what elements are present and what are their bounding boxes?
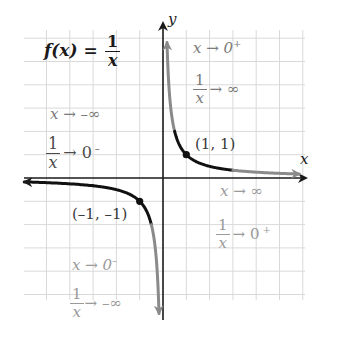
y-axis-label: y — [168, 12, 176, 27]
annotation-recip-to-inf: 1x→ ∞ — [193, 73, 242, 106]
fraction-denominator: x — [108, 52, 118, 69]
point-neg1-neg1 — [136, 198, 143, 205]
curve-branch-positive-up-arrow — [167, 43, 175, 132]
annotation-x-to-neg-inf: x → –∞ — [50, 107, 101, 122]
fraction-numerator: 1 — [105, 34, 120, 52]
annotation-x-to-inf: x → ∞ — [220, 184, 263, 199]
curve-branch-negative-left-arrow — [24, 182, 93, 186]
curve-branch-positive-right-arrow — [233, 170, 299, 174]
annotation-recip-to-0-minus: 1x→ 0– — [46, 136, 100, 171]
x-axis-label: x — [300, 152, 308, 167]
point-label-1-1: (1, 1) — [195, 137, 235, 152]
point-label-neg1-neg1: (–1, –1) — [72, 207, 127, 222]
annotation-recip-to-neg-inf: 1x→ –∞ — [70, 287, 125, 320]
annotation-x-to-0-minus: x → 0– — [72, 256, 117, 273]
annotation-recip-to-0-plus: 1x→ 0+ — [216, 218, 271, 251]
function-title-fraction: 1 x — [105, 34, 120, 69]
function-title-lhs: f(x) = — [44, 40, 98, 60]
function-title: f(x) = 1 x — [44, 34, 120, 69]
point-1-1 — [183, 151, 190, 158]
curve-branch-negative-down-arrow — [151, 225, 159, 314]
annotation-x-to-0-plus: x → 0+ — [193, 39, 242, 56]
